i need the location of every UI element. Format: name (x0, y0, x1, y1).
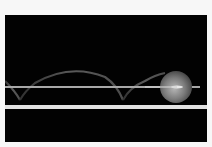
lower-rail (5, 105, 207, 109)
photo-frame (5, 15, 207, 142)
ball-trail (5, 71, 165, 100)
bouncing-ball-photo (5, 15, 207, 142)
